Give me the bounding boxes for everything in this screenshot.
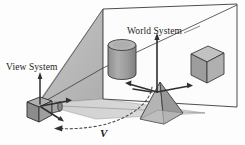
velocity-label: V — [100, 127, 107, 139]
cylinder-object — [108, 40, 136, 80]
view-system-label: View System — [6, 62, 57, 72]
diagram-figure: View System World System V — [0, 0, 245, 145]
motion-arrowhead — [54, 125, 63, 131]
diagram-canvas — [0, 0, 245, 145]
world-system-label: World System — [127, 26, 182, 36]
